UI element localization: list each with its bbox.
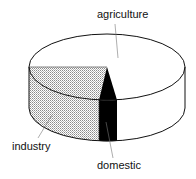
pie-chart-3d	[0, 0, 196, 179]
domestic-side	[99, 100, 117, 141]
label-domestic: domestic	[97, 159, 141, 171]
label-agriculture: agriculture	[97, 8, 148, 20]
label-industry: industry	[12, 140, 51, 152]
